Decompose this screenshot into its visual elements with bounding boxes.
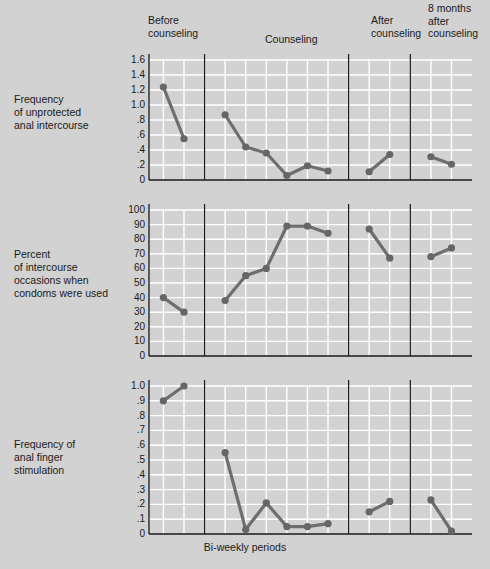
data-point (180, 135, 187, 142)
y-tick-label: 0 (111, 529, 145, 539)
x-axis-title: Bi-weekly periods (0, 541, 490, 553)
y-tick-label: .2 (111, 499, 145, 509)
data-point (304, 222, 311, 229)
data-point (242, 526, 249, 533)
y-tick-label: 90 (111, 220, 145, 230)
data-point (386, 151, 393, 158)
data-point (263, 265, 270, 272)
y-tick-label: 70 (111, 249, 145, 259)
plot-area-finger-stimulation: 0.1.2.3.4.5.6.7.8.91.0 (0, 378, 472, 538)
plot-area-condom-use: 0102030405060708090100 (0, 202, 472, 360)
figure-container: Before counseling Counseling After couns… (0, 0, 490, 569)
data-point (160, 397, 167, 404)
data-point (263, 499, 270, 506)
data-point (283, 222, 290, 229)
panel-finger-stimulation: Frequency of anal finger stimulation 0.1… (0, 378, 490, 538)
y-tick-label: 0 (111, 351, 145, 361)
y-tick-label: 1.0 (111, 381, 145, 391)
data-point (304, 162, 311, 169)
y-tick-label: 20 (111, 322, 145, 332)
y-tick-label: 1.6 (111, 55, 145, 65)
y-tick-label: .4 (111, 470, 145, 480)
data-point (242, 272, 249, 279)
y-tick-label: .1 (111, 514, 145, 524)
data-point (283, 523, 290, 530)
panel-condom-use: Percent of intercourse occasions when co… (0, 202, 490, 362)
data-point (242, 143, 249, 150)
y-tick-label: .3 (111, 485, 145, 495)
data-point (366, 225, 373, 232)
y-tick-label: .6 (111, 440, 145, 450)
y-tick-label: .2 (111, 160, 145, 170)
data-point (222, 449, 229, 456)
y-tick-label: .5 (111, 455, 145, 465)
phase-label-followup: 8 months after counseling (428, 2, 478, 40)
data-point (180, 382, 187, 389)
y-tick-label: .8 (111, 411, 145, 421)
data-point (324, 167, 331, 174)
data-point (160, 83, 167, 90)
y-tick-label: .8 (111, 115, 145, 125)
y-tick-label: 10 (111, 336, 145, 346)
data-point (366, 168, 373, 175)
data-point (448, 244, 455, 251)
y-tick-label: 1.4 (111, 70, 145, 80)
data-point (160, 294, 167, 301)
y-tick-label: 80 (111, 234, 145, 244)
data-point (324, 520, 331, 527)
data-point (427, 496, 434, 503)
data-point (304, 523, 311, 530)
phase-header: Before counseling Counseling After couns… (0, 0, 490, 52)
panel-unprotected-intercourse: Frequency of unprotected anal intercours… (0, 52, 490, 187)
y-tick-label: 1.0 (111, 100, 145, 110)
data-point (180, 309, 187, 316)
phase-label-after: After counseling (371, 14, 421, 39)
plot-area-unprotected-intercourse: 0.2.4.6.81.01.21.41.6 (0, 52, 472, 184)
data-point (448, 161, 455, 168)
data-point (324, 230, 331, 237)
data-point (427, 253, 434, 260)
phase-label-before: Before counseling (148, 14, 198, 39)
data-point (427, 153, 434, 160)
data-point (283, 172, 290, 179)
y-tick-label: 1.2 (111, 85, 145, 95)
y-tick-label: .7 (111, 425, 145, 435)
y-tick-label: 40 (111, 293, 145, 303)
data-point (386, 255, 393, 262)
data-point (386, 498, 393, 505)
y-tick-label: 30 (111, 307, 145, 317)
data-point (366, 508, 373, 515)
y-tick-label: .4 (111, 145, 145, 155)
panel-unprotected-intercourse-svg (0, 52, 472, 184)
data-point (222, 111, 229, 118)
y-tick-label: 0 (111, 175, 145, 185)
y-tick-label: 50 (111, 278, 145, 288)
data-point (222, 297, 229, 304)
phase-label-during: Counseling (265, 33, 318, 46)
y-tick-label: .6 (111, 130, 145, 140)
data-point (448, 527, 455, 534)
y-tick-label: 60 (111, 263, 145, 273)
data-point (263, 149, 270, 156)
y-tick-label: .9 (111, 396, 145, 406)
y-tick-label: 100 (111, 205, 145, 215)
panel-condom-use-svg (0, 202, 472, 360)
panel-finger-stimulation-svg (0, 378, 472, 538)
